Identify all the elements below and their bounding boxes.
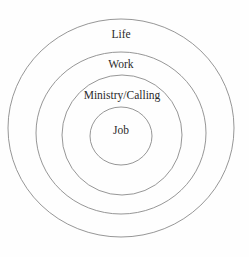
label-life: Life bbox=[111, 28, 130, 40]
concentric-circles-diagram: Life Work Ministry/Calling Job bbox=[0, 0, 249, 257]
diagram-canvas: Life Work Ministry/Calling Job bbox=[0, 0, 249, 257]
label-work: Work bbox=[108, 58, 134, 70]
circle-job bbox=[90, 107, 152, 165]
label-job: Job bbox=[113, 124, 129, 136]
label-ministry-calling: Ministry/Calling bbox=[84, 89, 161, 102]
